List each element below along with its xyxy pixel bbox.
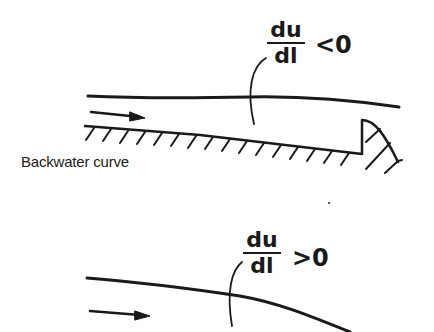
flow-arrow-bottom-icon <box>90 311 150 320</box>
fraction-numerator: du <box>244 230 279 250</box>
fraction-denominator: dl <box>272 46 299 66</box>
leader-line-top <box>250 58 266 124</box>
fraction-denominator: dl <box>248 256 275 276</box>
water-surface-top <box>88 96 399 107</box>
channel-bed-top <box>85 120 398 162</box>
derivative-fraction-bottom: du dl <box>243 230 281 276</box>
backwater-curve-caption: Backwater curve <box>21 153 129 170</box>
relation-top: <0 <box>315 31 352 59</box>
stray-dot <box>328 202 330 204</box>
bed-hatching-top <box>86 128 402 173</box>
derivative-fraction-top: du dl <box>267 20 305 66</box>
flow-arrow-top-icon <box>91 112 145 121</box>
water-surface-bottom <box>87 278 350 332</box>
fraction-numerator: du <box>268 20 303 40</box>
relation-bottom: >0 <box>292 244 329 272</box>
